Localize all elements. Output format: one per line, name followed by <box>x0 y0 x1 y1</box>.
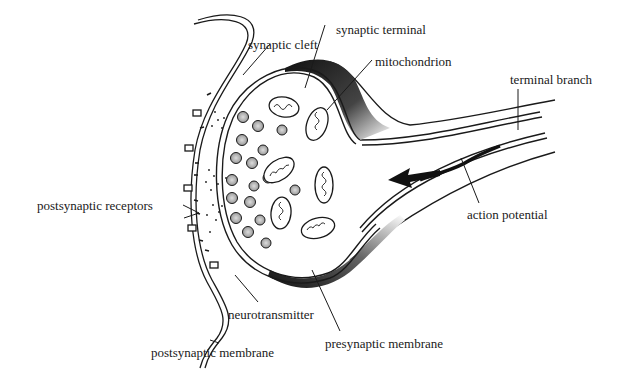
label-mitochondrion: mitochondrion <box>375 55 452 68</box>
mitochondria <box>259 95 337 243</box>
synapse-illustration <box>0 0 634 382</box>
label-presynaptic-membrane: presynaptic membrane <box>325 337 443 350</box>
label-neurotransmitter: neurotransmitter <box>228 308 314 321</box>
label-action-potential: action potential <box>467 208 548 221</box>
terminal-branch-shape <box>330 62 555 260</box>
label-synaptic-terminal: synaptic terminal <box>336 23 426 36</box>
label-synaptic-cleft: synaptic cleft <box>248 38 318 51</box>
terminal-top-shading <box>285 59 390 140</box>
label-postsynaptic-receptors: postsynaptic receptors <box>37 199 153 212</box>
label-postsynaptic-membrane: postsynaptic membrane <box>151 346 274 359</box>
synapse-diagram: synaptic cleft synaptic terminal mitocho… <box>0 0 634 382</box>
label-terminal-branch: terminal branch <box>510 73 592 86</box>
synaptic-vesicles <box>227 112 301 249</box>
